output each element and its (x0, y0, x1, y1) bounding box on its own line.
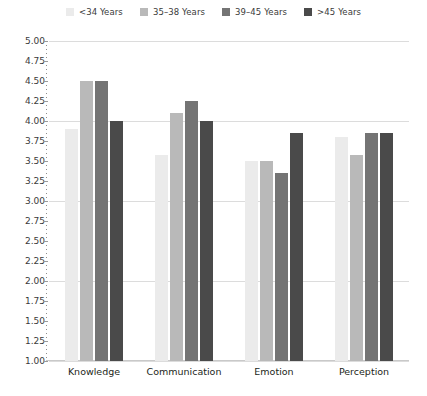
bar-2-3[interactable] (290, 133, 303, 361)
legend-item-2[interactable]: 39–45 Years (222, 8, 287, 17)
bar-groups (49, 41, 409, 361)
chart-legend: <34 Years35–38 Years39–45 Years>45 Years (0, 4, 427, 20)
y-tick-mark-16 (43, 361, 48, 362)
bar-chart: <34 Years35–38 Years39–45 Years>45 Years… (0, 0, 427, 396)
y-tick-mark-13 (43, 301, 48, 302)
legend-item-3[interactable]: >45 Years (304, 8, 361, 17)
bar-1-2[interactable] (185, 101, 198, 361)
bar-group-3 (319, 41, 409, 361)
y-tick-mark-5 (43, 141, 48, 142)
y-tick-mark-11 (43, 261, 48, 262)
y-tick-label-11: 2.25 (11, 257, 45, 266)
y-tick-label-13: 1.75 (11, 297, 45, 306)
legend-swatch-icon-3 (304, 8, 312, 16)
bar-0-2[interactable] (95, 81, 108, 361)
y-tick-label-9: 2.75 (11, 217, 45, 226)
bar-group-1 (139, 41, 229, 361)
x-tick-label-1: Communication (139, 366, 229, 386)
bar-2-2[interactable] (275, 173, 288, 361)
y-tick-mark-8 (43, 201, 48, 202)
bar-0-3[interactable] (110, 121, 123, 361)
y-tick-mark-2 (43, 81, 48, 82)
y-tick-mark-3 (43, 101, 48, 102)
legend-swatch-icon-2 (222, 8, 230, 16)
y-tick-mark-0 (43, 41, 48, 42)
bar-1-3[interactable] (200, 121, 213, 361)
x-tick-label-0: Knowledge (49, 366, 139, 386)
y-tick-label-2: 4.50 (11, 77, 45, 86)
bar-3-2[interactable] (365, 133, 378, 361)
x-tick-label-2: Emotion (229, 366, 319, 386)
bar-1-1[interactable] (170, 113, 183, 361)
y-tick-mark-14 (43, 321, 48, 322)
y-tick-mark-7 (43, 181, 48, 182)
bar-2-0[interactable] (245, 161, 258, 361)
bar-2-1[interactable] (260, 161, 273, 361)
x-tick-label-3: Perception (319, 366, 409, 386)
y-tick-label-14: 1.50 (11, 317, 45, 326)
y-tick-label-16: 1.00 (11, 357, 45, 366)
y-tick-mark-12 (43, 281, 48, 282)
y-tick-mark-1 (43, 61, 48, 62)
bar-0-1[interactable] (80, 81, 93, 361)
y-tick-label-8: 3.00 (11, 197, 45, 206)
y-tick-label-4: 4.00 (11, 117, 45, 126)
legend-label-3: >45 Years (317, 8, 361, 17)
y-tick-label-12: 2.00 (11, 277, 45, 286)
y-tick-mark-4 (43, 121, 48, 122)
y-tick-mark-9 (43, 221, 48, 222)
legend-swatch-icon-1 (140, 8, 148, 16)
legend-swatch-icon-0 (66, 8, 74, 16)
y-tick-mark-15 (43, 341, 48, 342)
bar-group-0 (49, 41, 139, 361)
y-tick-label-1: 4.75 (11, 57, 45, 66)
y-tick-label-10: 2.50 (11, 237, 45, 246)
y-tick-label-15: 1.25 (11, 337, 45, 346)
y-tick-label-7: 3.25 (11, 177, 45, 186)
legend-label-1: 35–38 Years (153, 8, 205, 17)
y-tick-label-6: 3.50 (11, 157, 45, 166)
legend-item-1[interactable]: 35–38 Years (140, 8, 205, 17)
y-tick-mark-10 (43, 241, 48, 242)
legend-label-0: <34 Years (79, 8, 123, 17)
gridline-4 (49, 361, 409, 362)
y-axis-labels: 5.004.754.504.254.003.753.503.253.002.75… (5, 41, 45, 361)
bar-3-3[interactable] (380, 133, 393, 361)
bar-0-0[interactable] (65, 129, 78, 361)
legend-label-2: 39–45 Years (235, 8, 287, 17)
bar-3-1[interactable] (350, 155, 363, 361)
x-axis-labels: KnowledgeCommunicationEmotionPerception (49, 366, 409, 386)
y-tick-label-3: 4.25 (11, 97, 45, 106)
plot-area (49, 41, 409, 361)
bar-group-2 (229, 41, 319, 361)
y-tick-label-5: 3.75 (11, 137, 45, 146)
bar-3-0[interactable] (335, 137, 348, 361)
legend-item-0[interactable]: <34 Years (66, 8, 123, 17)
y-tick-mark-6 (43, 161, 48, 162)
bar-1-0[interactable] (155, 155, 168, 361)
y-tick-label-0: 5.00 (11, 37, 45, 46)
